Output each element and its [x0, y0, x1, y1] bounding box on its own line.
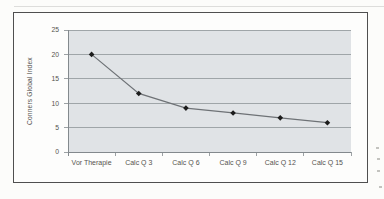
x-axis-category-label: Calc Q 15	[312, 159, 343, 167]
margin-mark	[376, 147, 379, 149]
y-axis-tick-label: 5	[55, 124, 59, 131]
margin-mark	[377, 158, 380, 160]
y-axis-tick-label: 10	[51, 100, 59, 107]
y-axis-title: Conners Global Index	[23, 30, 35, 152]
x-axis-category-label: Calc Q 9	[219, 159, 246, 167]
page-edge-line	[14, 6, 384, 7]
y-axis-tick-label: 15	[51, 75, 59, 82]
x-axis-category-label: Calc Q 6	[172, 159, 199, 167]
conners-line-chart: 0510152025Vor TherapieCalc Q 3Calc Q 6Ca…	[14, 13, 366, 181]
x-axis-category-label: Vor Therapie	[72, 159, 112, 167]
margin-mark	[379, 186, 382, 188]
plot-area	[68, 30, 351, 152]
y-axis-tick-label: 0	[55, 148, 59, 155]
y-axis-tick-label: 20	[51, 51, 59, 58]
scanned-figure-page: 0510152025Vor TherapieCalc Q 3Calc Q 6Ca…	[0, 0, 384, 199]
figure-frame: 0510152025Vor TherapieCalc Q 3Calc Q 6Ca…	[13, 12, 368, 183]
y-axis-tick-label: 25	[51, 26, 59, 33]
margin-mark	[377, 170, 380, 172]
x-axis-category-label: Calc Q 3	[125, 159, 152, 167]
x-axis-category-label: Calc Q 12	[265, 159, 296, 167]
